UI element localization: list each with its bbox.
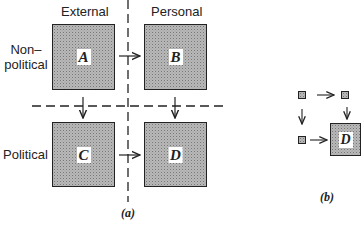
column-header-external: External [61,4,109,19]
box-d-label: D [168,147,183,163]
box-b-label: B [168,49,182,65]
box-a-label: A [76,49,90,65]
box-c-label: C [76,147,90,163]
row-label-line: political [2,57,50,72]
caption-b: (b) [320,190,334,205]
box-d: D [144,122,207,187]
b-small-box-top-right [341,91,349,99]
b-small-box-top-left [298,91,306,99]
row-label-nonpolitical: Non– political [2,42,50,72]
caption-a: (a) [121,206,135,221]
b-box-d-label: D [338,132,352,148]
box-b: B [144,24,207,90]
b-box-d: D [330,123,361,156]
box-c: C [52,122,115,187]
row-label-political: Political [3,147,48,162]
box-a: A [52,24,115,90]
column-header-personal: Personal [151,4,202,19]
b-small-box-bottom-left [298,136,306,144]
row-label-line: Non– [2,42,50,57]
